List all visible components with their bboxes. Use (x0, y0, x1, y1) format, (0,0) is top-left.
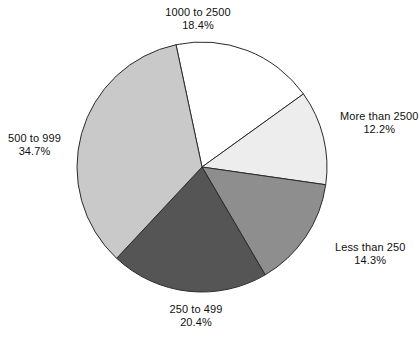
slice-label-percent: 14.3% (335, 254, 405, 267)
slice-label-percent: 12.2% (340, 123, 418, 136)
slice-label-percent: 20.4% (170, 316, 223, 329)
slice-label-percent: 34.7% (8, 145, 61, 158)
slice-label-percent: 18.4% (165, 19, 230, 32)
slice-label-more-than-2500: More than 2500 12.2% (340, 110, 418, 136)
slice-label-500-to-999: 500 to 999 34.7% (8, 132, 61, 158)
slice-label-1000-to-2500: 1000 to 2500 18.4% (165, 6, 230, 32)
pie-chart-canvas (0, 0, 420, 346)
slice-label-less-than-250: Less than 250 14.3% (335, 241, 405, 267)
slice-label-name: 250 to 499 (170, 303, 223, 316)
slice-label-250-to-499: 250 to 499 20.4% (170, 303, 223, 329)
slice-label-name: More than 2500 (340, 110, 418, 123)
pie-chart-figure: 1000 to 2500 18.4% More than 2500 12.2% … (0, 0, 420, 346)
slice-label-name: Less than 250 (335, 241, 405, 254)
slice-label-name: 1000 to 2500 (165, 6, 230, 19)
clipped-caption-strip (0, 339, 420, 346)
pie-slice-group (77, 42, 327, 292)
slice-label-name: 500 to 999 (8, 132, 61, 145)
